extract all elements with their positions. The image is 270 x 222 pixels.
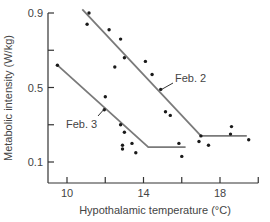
data-point [119, 37, 122, 40]
y-tick-label: 0.5 [28, 82, 43, 94]
x-axis-title: Hypothalamic temperature (°C) [79, 204, 231, 216]
data-point [113, 65, 116, 68]
data-point [177, 142, 180, 145]
data-point [180, 155, 183, 158]
data-point [164, 110, 167, 113]
data-point [130, 142, 133, 145]
annotation-feb2: Feb. 2 [175, 72, 206, 84]
data-point [230, 125, 233, 128]
data-point [87, 11, 90, 14]
data-point [229, 132, 232, 135]
data-point [207, 144, 210, 147]
x-tick-label: 14 [137, 187, 149, 199]
annotation-leader-feb3 [98, 109, 104, 116]
metabolic-intensity-chart: 0.10.50.9101418 Feb. 2Feb. 3 Hypothalami… [0, 0, 270, 222]
data-point [123, 131, 126, 134]
data-point [247, 138, 250, 141]
data-point [121, 144, 124, 147]
annotation-feb3: Feb. 3 [66, 118, 97, 130]
fit-line-feb2 [82, 9, 247, 136]
data-point [123, 56, 126, 59]
data-point [199, 134, 202, 137]
annotations: Feb. 2Feb. 3 [66, 72, 206, 130]
data-point [119, 123, 122, 126]
data-point [56, 63, 59, 66]
data-point [85, 23, 88, 26]
data-point [134, 151, 137, 154]
y-tick-label: 0.1 [28, 156, 43, 168]
data-point [121, 147, 124, 150]
y-axis-title: Metabolic intensity (W/kg) [2, 35, 14, 161]
y-tick-label: 0.9 [28, 7, 43, 19]
x-tick-label: 10 [61, 187, 73, 199]
data-point [104, 95, 107, 98]
annotation-leader-feb2 [162, 83, 173, 89]
data-point [197, 140, 200, 143]
data-point [107, 28, 110, 31]
fit-line-feb3 [57, 65, 185, 147]
data-point [169, 114, 172, 117]
data-point [144, 60, 147, 63]
data-point [150, 73, 153, 76]
axes: 0.10.50.9101418 [28, 7, 259, 199]
x-tick-label: 18 [214, 187, 226, 199]
